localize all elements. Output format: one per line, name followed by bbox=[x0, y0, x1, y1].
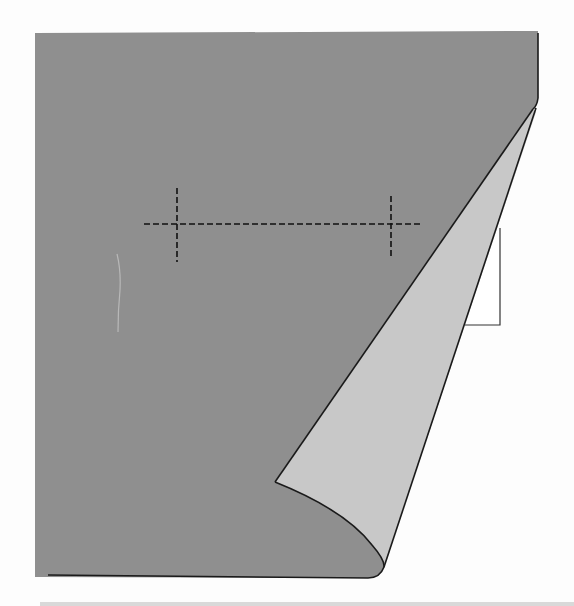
diagram-canvas bbox=[0, 0, 574, 606]
bottom-strip bbox=[40, 602, 574, 606]
